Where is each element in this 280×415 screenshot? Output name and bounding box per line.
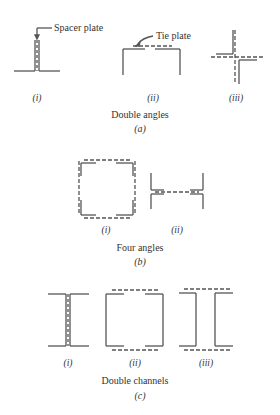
panel-c-letter: (c) xyxy=(134,390,145,401)
c-ii-label: (ii) xyxy=(129,358,141,368)
panel-a-title: Double angles xyxy=(111,109,169,120)
b-i-label: (i) xyxy=(102,225,111,235)
b-ii-label: (ii) xyxy=(171,225,183,235)
panel-b-title: Four angles xyxy=(117,242,164,253)
c-ii-double-channel-shape xyxy=(106,290,163,350)
a-i-label: (i) xyxy=(33,93,42,103)
spacer-plate-callout: Spacer plate xyxy=(54,22,103,33)
c-iii-label: (iii) xyxy=(199,358,213,368)
a-ii-label: (ii) xyxy=(147,93,159,103)
panel-b-letter: (b) xyxy=(134,256,146,267)
diagram-canvas xyxy=(0,0,280,415)
panel-a-letter: (a) xyxy=(134,123,146,134)
c-iii-double-channel-shape xyxy=(179,289,233,350)
b-ii-four-angles-shape xyxy=(151,173,203,209)
tie-plate-callout: Tie plate xyxy=(156,30,191,41)
c-i-double-channel-shape xyxy=(48,294,89,346)
b-i-four-angles-shape xyxy=(79,160,135,218)
a-ii-double-angle-shape xyxy=(123,36,180,75)
a-iii-label: (iii) xyxy=(229,93,243,103)
panel-c-title: Double channels xyxy=(102,375,169,386)
a-i-double-angle-shape xyxy=(14,28,60,71)
a-iii-star-angle-shape xyxy=(211,30,264,84)
c-i-label: (i) xyxy=(64,358,73,368)
